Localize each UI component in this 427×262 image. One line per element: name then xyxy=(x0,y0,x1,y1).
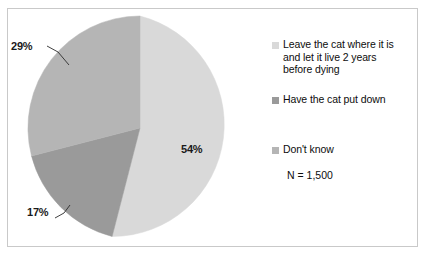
legend-item-have-the-cat-put-down[interactable]: Have the cat put down xyxy=(272,93,418,106)
slice-value-label-54: 54% xyxy=(181,143,202,155)
legend-swatch-icon-have-the-cat-put-down xyxy=(272,97,279,104)
legend-swatch-icon-leave-the-cat xyxy=(272,42,279,49)
slice-value-label-29: 29% xyxy=(11,40,32,52)
legend-label-line-1: Leave the cat where it is xyxy=(283,38,394,50)
legend-label-line-2: and let it live 2 years xyxy=(283,51,376,63)
legend-label-have-the-cat-put-down: Have the cat put down xyxy=(283,93,385,106)
legend-item-dont-know[interactable]: Don't know xyxy=(272,143,418,156)
legend-swatch-icon-dont-know xyxy=(272,147,279,154)
slice-value-label-17: 17% xyxy=(27,206,48,218)
legend-label-line-3: before dying xyxy=(283,63,340,75)
sample-size-annotation: N = 1,500 xyxy=(287,169,418,181)
legend-label-dont-know: Don't know xyxy=(283,143,334,156)
chart-legend: Leave the cat where it is and let it liv… xyxy=(272,38,418,181)
legend-label-leave-the-cat: Leave the cat where it is and let it liv… xyxy=(283,38,394,76)
legend-item-leave-the-cat[interactable]: Leave the cat where it is and let it liv… xyxy=(272,38,418,76)
